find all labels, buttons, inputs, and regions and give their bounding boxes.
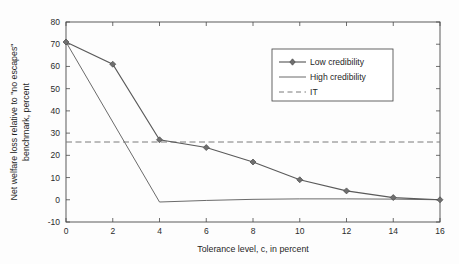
x-tick-label: 16	[435, 226, 445, 236]
data-point-marker	[110, 61, 116, 67]
y-axis-ticks-right	[436, 22, 440, 222]
x-tick-label: 6	[204, 226, 209, 236]
data-point-marker	[297, 177, 303, 183]
y-axis-tick-labels: -1001020304050607080	[48, 17, 61, 227]
y-tick-label: 70	[51, 39, 61, 49]
x-tick-label: 4	[157, 226, 162, 236]
y-axis-title-line1: Net welfare loss relative to "no escapes…	[9, 44, 19, 201]
y-axis-title-line2: benchmark, percent	[21, 83, 31, 161]
chart-legend[interactable]: Low credibility High credibility IT	[272, 49, 393, 101]
data-point-marker	[203, 145, 209, 151]
y-tick-label: 80	[51, 17, 61, 27]
y-tick-label: 10	[51, 173, 61, 183]
x-tick-label: 10	[295, 226, 305, 236]
data-point-marker	[437, 197, 443, 203]
x-axis-title: Tolerance level, c, in percent	[197, 244, 309, 254]
y-tick-label: 20	[51, 150, 61, 160]
x-tick-label: 14	[389, 226, 399, 236]
y-tick-label: 30	[51, 128, 61, 138]
x-axis-ticks	[66, 218, 440, 222]
legend-label-high-credibility: High credibility	[310, 72, 367, 82]
data-point-marker	[250, 159, 256, 165]
x-tick-label: 8	[251, 226, 256, 236]
data-point-marker	[344, 188, 350, 194]
x-tick-label: 12	[342, 226, 352, 236]
y-tick-label: 60	[51, 61, 61, 71]
y-axis-ticks	[66, 22, 70, 222]
data-point-marker	[390, 195, 396, 201]
chart-figure: 0246810121416 -1001020304050607080 Toler…	[0, 0, 459, 264]
y-tick-label: 50	[51, 84, 61, 94]
legend-label-it: IT	[310, 87, 318, 97]
y-tick-label: 40	[51, 106, 61, 116]
x-axis-ticks-top	[66, 22, 440, 26]
y-tick-label: -10	[48, 217, 61, 227]
legend-label-low-credibility: Low credibility	[310, 57, 365, 67]
welfare-loss-line-chart: 0246810121416 -1001020304050607080 Toler…	[0, 0, 459, 264]
x-tick-label: 0	[64, 226, 69, 236]
x-axis-tick-labels: 0246810121416	[64, 226, 445, 236]
y-tick-label: 0	[55, 195, 60, 205]
x-tick-label: 2	[110, 226, 115, 236]
